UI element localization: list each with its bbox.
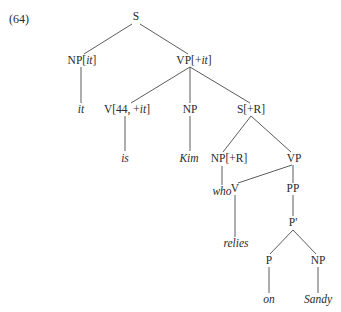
- node-s-root: S: [133, 11, 139, 23]
- leaf-kim: Kim: [179, 153, 198, 165]
- node-np-it-cat: NP[: [68, 54, 87, 66]
- branch-vp-it-s-r: [190, 67, 250, 103]
- node-np-sandy: NP: [311, 255, 326, 267]
- branch-s-r-np-r: [223, 116, 251, 152]
- node-v44-cat: V[44, +: [104, 103, 140, 115]
- node-vp-plus-it: VP[+it]: [176, 55, 211, 67]
- leaf-relies: relies: [223, 238, 248, 250]
- node-v44-close: ]: [146, 103, 150, 115]
- node-vp-it-cat: VP[+: [176, 54, 201, 66]
- node-s-plus-r: S[+R]: [237, 104, 265, 116]
- node-np-plus-r: NP[+R]: [211, 153, 248, 165]
- branch-s-r-vp: [251, 116, 291, 152]
- leaf-it: it: [78, 104, 84, 116]
- node-np-it-close: ]: [93, 54, 97, 66]
- branch-s-np-it: [84, 24, 132, 54]
- branch-pbar-p: [270, 230, 293, 254]
- leaf-who: who: [212, 186, 231, 198]
- leaf-on: on: [263, 294, 275, 306]
- node-np-object: NP: [183, 104, 198, 116]
- node-p: P: [266, 255, 272, 267]
- branch-vp-v: [238, 165, 292, 183]
- node-v-44-plus-it: V[44, +it]: [104, 104, 150, 116]
- leaf-is: is: [121, 153, 129, 165]
- example-number: (64): [9, 13, 29, 25]
- syntax-tree: (64) S NP[it] VP[+it] it V[44, +it] NP S…: [0, 0, 341, 312]
- node-vp-relative: VP: [287, 153, 302, 165]
- node-v: V: [231, 183, 239, 195]
- branch-pbar-np: [293, 230, 316, 254]
- node-p-bar: P': [289, 217, 297, 229]
- node-np-it: NP[it]: [68, 55, 97, 67]
- branch-s-vp-it: [140, 24, 188, 54]
- leaf-sandy: Sandy: [304, 294, 332, 306]
- branch-vp-it-v44: [131, 67, 190, 103]
- node-vp-it-close: ]: [208, 54, 212, 66]
- node-pp: PP: [287, 183, 300, 195]
